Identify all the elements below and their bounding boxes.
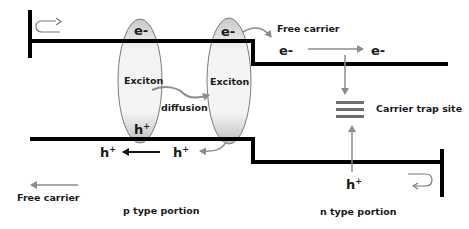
free-electron-label-1: e- (279, 44, 293, 57)
left-electrode (28, 10, 32, 58)
return-arrow-icon-right (408, 174, 432, 189)
carrier-trap-site-label: Carrier trap site (376, 104, 462, 114)
free-electron-label-2: e- (371, 44, 385, 57)
exciton-label-left: Exciton (124, 76, 163, 86)
n-type-portion-label: n type portion (320, 207, 396, 217)
electron-label-right: e- (221, 25, 235, 38)
hole-label-bottom-2: h+ (173, 146, 189, 159)
hole-label-trap: h+ (346, 178, 362, 191)
free-carrier-arrow-top (243, 28, 271, 37)
carrier-trap-site-icon (336, 101, 364, 118)
hole-label-bottom-1: h+ (100, 146, 116, 159)
right-electrode (440, 149, 444, 197)
return-arrow-icon-left (36, 18, 61, 32)
valence-band-line (30, 139, 442, 162)
free-carrier-label-top: Free carrier (277, 24, 340, 34)
hole-label-ellipse: h+ (134, 123, 150, 136)
free-carrier-label-bottom: Free carrier (17, 193, 80, 203)
exciton-label-right: Exciton (210, 77, 249, 87)
hole-transfer-arrow (200, 142, 226, 151)
p-type-portion-label: p type portion (123, 206, 200, 216)
electron-label-left: e- (134, 24, 148, 37)
diffusion-label: diffusion (161, 103, 208, 113)
